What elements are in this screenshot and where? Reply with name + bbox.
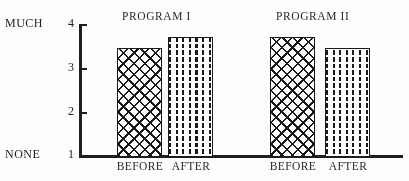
y-axis-line: [79, 24, 82, 157]
y-axis-tick-4: [79, 24, 87, 26]
y-axis-tick-1: [79, 155, 87, 157]
x-axis-label-program-1-after: AFTER: [160, 160, 222, 172]
y-axis-tick-label-4: 4: [58, 16, 74, 31]
y-axis-label-much: MUCH: [5, 16, 43, 31]
bar-program-2-before: [270, 37, 315, 157]
bar-program-1-after: [168, 37, 213, 157]
y-axis-tick-label-1: 1: [58, 147, 74, 162]
bar-chart-figure: PROGRAM I PROGRAM II 4 3 2 1 MUCH NONE B…: [0, 0, 409, 181]
y-axis-tick-label-2: 2: [58, 104, 74, 119]
chart-group-title-program-1: PROGRAM I: [122, 10, 191, 22]
x-axis-label-program-2-after: AFTER: [317, 160, 379, 172]
y-axis-tick-2: [79, 112, 87, 114]
y-axis-tick-label-3: 3: [58, 60, 74, 75]
y-axis-tick-3: [79, 68, 87, 70]
chart-group-title-program-2: PROGRAM II: [276, 10, 349, 22]
bar-program-1-before: [117, 48, 162, 157]
y-axis-label-none: NONE: [5, 147, 40, 162]
bar-program-2-after: [325, 48, 370, 157]
